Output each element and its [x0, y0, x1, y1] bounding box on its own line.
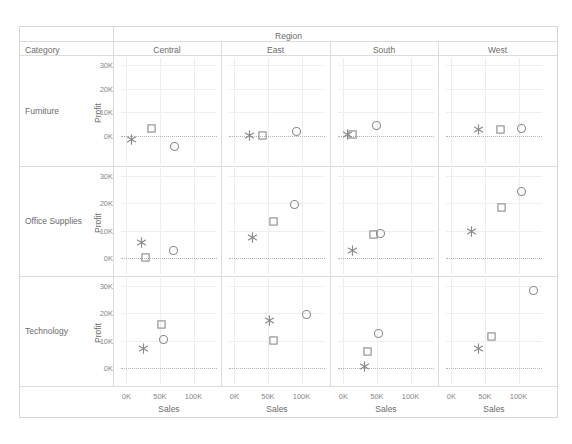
gridline-horizontal-0 [338, 65, 434, 66]
category-header-label: Category [25, 45, 60, 55]
column-header-west: West [438, 45, 557, 55]
x-tick-2-2: 100K [396, 392, 426, 401]
x-tick-0-0: 0K [111, 392, 141, 401]
y-tick-2-0: 30K [95, 282, 113, 291]
circle-marker[interactable] [289, 199, 300, 210]
gridline-vertical-1 [485, 58, 486, 164]
row-label-furniture: Furniture [25, 106, 59, 116]
circle-marker[interactable] [168, 245, 179, 256]
square-marker[interactable] [496, 202, 507, 213]
row-divider-1 [20, 166, 557, 167]
zero-reference-line [229, 368, 325, 369]
square-marker[interactable] [268, 216, 279, 227]
x-tick-3-0: 0K [436, 392, 466, 401]
circle-marker[interactable] [516, 186, 527, 197]
x-axis-title-1: Sales [229, 404, 325, 414]
circle-marker[interactable] [158, 334, 169, 345]
gridline-horizontal-0 [446, 176, 542, 177]
gridline-vertical-1 [377, 58, 378, 164]
gridline-horizontal-0 [121, 286, 217, 287]
zero-reference-line [338, 368, 434, 369]
square-marker[interactable] [486, 331, 497, 342]
star-marker[interactable] [136, 237, 147, 248]
category-header-divider [113, 26, 114, 41]
circle-marker[interactable] [528, 285, 539, 296]
row-label-office-supplies: Office Supplies [25, 216, 82, 226]
panel-furniture-central[interactable] [121, 58, 217, 164]
gridline-horizontal-0 [121, 176, 217, 177]
gridline-horizontal-0 [121, 65, 217, 66]
x-tick-1-2: 100K [287, 392, 317, 401]
column-divider-3 [438, 41, 439, 386]
star-marker[interactable] [466, 226, 477, 237]
gridline-horizontal-0 [338, 286, 434, 287]
star-marker[interactable] [473, 124, 484, 135]
square-marker[interactable] [347, 129, 358, 140]
x-tick-0-2: 100K [179, 392, 209, 401]
gridline-horizontal-2 [121, 231, 217, 232]
circle-marker[interactable] [375, 228, 386, 239]
y-tick-1-2: 10K [95, 227, 113, 236]
gridline-horizontal-1 [121, 203, 217, 204]
y-tick-1-1: 20K [95, 199, 113, 208]
gridline-horizontal-1 [121, 89, 217, 90]
y-tick-0-1: 20K [95, 85, 113, 94]
panel-office-supplies-south[interactable] [338, 168, 434, 274]
panel-technology-south[interactable] [338, 278, 434, 384]
gridline-horizontal-0 [229, 176, 325, 177]
circle-marker[interactable] [373, 328, 384, 339]
gridline-vertical-0 [451, 58, 452, 164]
column-header-east: East [221, 45, 330, 55]
square-marker[interactable] [146, 123, 157, 134]
star-marker[interactable] [473, 343, 484, 354]
panel-furniture-south[interactable] [338, 58, 434, 164]
x-tick-1-0: 0K [219, 392, 249, 401]
gridline-horizontal-2 [121, 341, 217, 342]
square-marker[interactable] [362, 346, 373, 357]
panel-technology-east[interactable] [229, 278, 325, 384]
square-marker[interactable] [268, 335, 279, 346]
star-marker[interactable] [347, 245, 358, 256]
star-marker[interactable] [359, 361, 370, 372]
panel-office-supplies-central[interactable] [121, 168, 217, 274]
x-axis-title-2: Sales [338, 404, 434, 414]
gridline-horizontal-2 [446, 112, 542, 113]
square-marker[interactable] [257, 130, 268, 141]
x-tick-3-2: 100K [504, 392, 534, 401]
y-tick-0-3: 0K [95, 132, 113, 141]
star-marker[interactable] [138, 343, 149, 354]
square-marker[interactable] [156, 319, 167, 330]
star-marker[interactable] [126, 134, 137, 145]
panel-furniture-east[interactable] [229, 58, 325, 164]
star-marker[interactable] [264, 315, 275, 326]
gridline-vertical-2 [519, 58, 520, 164]
square-marker[interactable] [140, 252, 151, 263]
star-marker[interactable] [244, 130, 255, 141]
y-tick-1-0: 30K [95, 172, 113, 181]
panel-technology-west[interactable] [446, 278, 542, 384]
circle-marker[interactable] [516, 123, 527, 134]
x-axis-title-3: Sales [446, 404, 542, 414]
gridline-horizontal-1 [446, 89, 542, 90]
square-marker[interactable] [495, 124, 506, 135]
gridline-horizontal-2 [121, 112, 217, 113]
panel-technology-central[interactable] [121, 278, 217, 384]
circle-marker[interactable] [301, 309, 312, 320]
gridline-vertical-1 [160, 58, 161, 164]
gridline-horizontal-1 [121, 313, 217, 314]
circle-marker[interactable] [169, 141, 180, 152]
star-marker[interactable] [247, 232, 258, 243]
x-axis-divider [20, 386, 557, 387]
column-header-south: South [330, 45, 438, 55]
region-header-divider [20, 41, 557, 42]
gridline-horizontal-0 [446, 65, 542, 66]
panel-furniture-west[interactable] [446, 58, 542, 164]
zero-reference-line [121, 368, 217, 369]
gridline-horizontal-2 [338, 231, 434, 232]
y-tick-0-0: 30K [95, 61, 113, 70]
circle-marker[interactable] [291, 126, 302, 137]
panel-office-supplies-east[interactable] [229, 168, 325, 274]
panel-office-supplies-west[interactable] [446, 168, 542, 274]
circle-marker[interactable] [371, 120, 382, 131]
row-divider-2 [20, 276, 557, 277]
